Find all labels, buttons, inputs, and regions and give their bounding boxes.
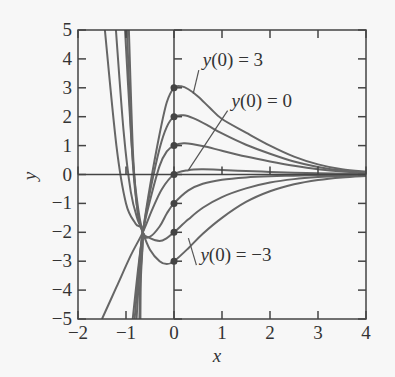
annotation-label: y(0) = 0 (230, 90, 292, 112)
annotation-label: y(0) = 3 (201, 49, 263, 71)
y-axis-title: y (19, 171, 40, 182)
x-tick-label: 4 (361, 322, 371, 343)
y-tick-label: −1 (52, 192, 72, 213)
initial-value-dot (171, 229, 178, 236)
solution-curve (135, 115, 366, 319)
x-tick-label: 2 (265, 322, 275, 343)
x-axis-title: x (212, 345, 222, 366)
solution-curves-chart: −2−101234543210−1−2−3−4−5 y(0) = 3y(0) =… (0, 0, 395, 377)
y-tick-label: 3 (63, 77, 73, 98)
initial-value-dot (171, 84, 178, 91)
solution-curve (133, 86, 366, 319)
y-tick-label: −5 (52, 308, 72, 329)
initial-value-dot (171, 113, 178, 120)
annotation-leader (193, 70, 199, 93)
initial-value-dot (171, 171, 178, 178)
x-tick-label: 1 (217, 322, 227, 343)
initial-value-dot (171, 200, 178, 207)
y-tick-label: 5 (63, 19, 73, 40)
annotation-label: y(0) = −3 (198, 244, 271, 266)
x-tick-label: 0 (169, 322, 179, 343)
y-tick-label: −4 (52, 279, 73, 300)
x-tick-label: 3 (313, 322, 323, 343)
y-tick-label: 1 (63, 135, 73, 156)
initial-value-dot (171, 142, 178, 149)
initial-value-dot (171, 258, 178, 265)
x-tick-label: −1 (116, 322, 136, 343)
y-tick-label: −3 (52, 250, 72, 271)
y-tick-label: 2 (63, 106, 73, 127)
y-tick-label: 4 (63, 48, 73, 69)
y-tick-label: 0 (63, 164, 73, 185)
y-tick-label: −2 (52, 221, 72, 242)
